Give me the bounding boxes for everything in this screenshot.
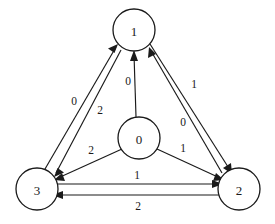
edge-line [151, 51, 222, 173]
edge-label-1-to-3: 2 [97, 104, 103, 116]
edge-0-to-1 [130, 50, 138, 117]
node-0[interactable]: 0 [118, 117, 160, 159]
edge-label-0-to-3: 2 [88, 144, 94, 156]
diagram-canvas: 0 2 0 1 0 2 1 1 2 0 1 2 3 [0, 0, 275, 224]
arrowhead-icon [130, 50, 138, 61]
edge-label-1-to-2: 1 [191, 78, 197, 90]
node-1[interactable]: 1 [113, 9, 155, 51]
edge-3-to-1 [45, 44, 118, 169]
node-label: 3 [34, 183, 41, 198]
edge-label-2-to-3: 2 [135, 200, 141, 212]
node-label: 1 [131, 24, 138, 39]
node-label: 0 [136, 132, 143, 147]
edge-label-0-to-2: 1 [180, 142, 186, 154]
arrowhead-icon [108, 44, 118, 53]
edge-line [45, 47, 116, 169]
edge-label-3-to-1: 0 [71, 95, 77, 107]
edge-1-to-2 [150, 44, 232, 174]
edge-label-2-to-1: 0 [180, 116, 186, 128]
edge-label-0-to-1: 0 [125, 75, 131, 87]
node-3[interactable]: 3 [16, 168, 58, 210]
edge-2-to-1 [148, 47, 222, 173]
edge-0-to-2 [157, 149, 224, 181]
edge-line [134, 54, 136, 117]
edge-label-3-to-2: 1 [134, 169, 140, 181]
edge-3-to-2 [57, 180, 223, 188]
node-label: 2 [236, 183, 243, 198]
node-2[interactable]: 2 [218, 168, 260, 210]
directed-graph: 0 2 0 1 0 2 1 1 2 0 1 2 3 [0, 0, 275, 224]
edge-2-to-3 [52, 191, 220, 199]
edge-1-to-3 [54, 50, 121, 177]
